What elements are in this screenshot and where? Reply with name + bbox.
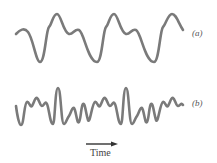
time-axis-label: Time	[90, 147, 111, 158]
waveform-figure	[0, 0, 217, 163]
waveform-a-label: (a)	[192, 28, 203, 38]
time-arrow-head	[111, 142, 118, 147]
waveform-b-label: (b)	[192, 98, 203, 108]
waveform-b	[16, 88, 183, 125]
waveform-a	[16, 14, 183, 62]
